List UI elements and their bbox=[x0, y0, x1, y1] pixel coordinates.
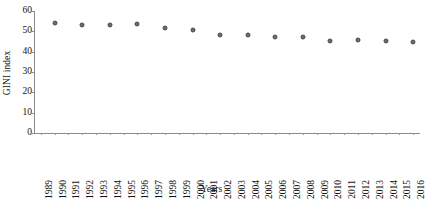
x-axis-line bbox=[34, 133, 420, 134]
x-axis-tick-labels: 1989199019911992199319941995199619971998… bbox=[34, 136, 420, 182]
data-point bbox=[52, 20, 57, 25]
y-tick-mark bbox=[31, 92, 35, 93]
x-tick-mark bbox=[413, 133, 414, 135]
y-axis-title-text: GINI index bbox=[2, 50, 12, 95]
x-tick-mark bbox=[137, 133, 138, 135]
data-point bbox=[328, 38, 333, 43]
x-tick-mark bbox=[289, 133, 290, 135]
x-tick-mark bbox=[234, 133, 235, 135]
x-tick-mark bbox=[151, 133, 152, 135]
x-tick-mark bbox=[110, 133, 111, 135]
y-tick-mark bbox=[31, 72, 35, 73]
x-axis-title: Years bbox=[0, 184, 423, 194]
data-point bbox=[135, 22, 140, 27]
x-tick-mark bbox=[344, 133, 345, 135]
x-tick-mark bbox=[220, 133, 221, 135]
y-tick-mark bbox=[31, 31, 35, 32]
data-point bbox=[273, 35, 278, 40]
y-tick-mark bbox=[31, 113, 35, 114]
x-tick-mark bbox=[261, 133, 262, 135]
x-tick-mark bbox=[358, 133, 359, 135]
x-tick-mark bbox=[317, 133, 318, 135]
data-point bbox=[383, 38, 388, 43]
x-tick-mark bbox=[386, 133, 387, 135]
x-tick-mark bbox=[124, 133, 125, 135]
x-tick-mark bbox=[206, 133, 207, 135]
x-tick-mark bbox=[303, 133, 304, 135]
x-tick-mark bbox=[96, 133, 97, 135]
y-tick-mark bbox=[31, 11, 35, 12]
x-tick-mark bbox=[399, 133, 400, 135]
data-point bbox=[245, 32, 250, 37]
data-point bbox=[190, 28, 195, 33]
y-tick-mark bbox=[31, 52, 35, 53]
x-tick-mark bbox=[372, 133, 373, 135]
data-point bbox=[300, 34, 305, 39]
data-point bbox=[162, 25, 167, 30]
x-tick-mark bbox=[193, 133, 194, 135]
data-point bbox=[107, 23, 112, 28]
data-point bbox=[218, 32, 223, 37]
data-point bbox=[355, 38, 360, 43]
data-point bbox=[80, 23, 85, 28]
data-point bbox=[411, 40, 416, 45]
x-tick-mark bbox=[330, 133, 331, 135]
x-tick-mark bbox=[55, 133, 56, 135]
x-tick-mark bbox=[82, 133, 83, 135]
x-tick-mark bbox=[248, 133, 249, 135]
y-axis-tick-labels: 0102030405060 bbox=[12, 0, 32, 140]
x-tick-mark bbox=[68, 133, 69, 135]
x-tick-mark bbox=[41, 133, 42, 135]
plot-area bbox=[34, 11, 420, 133]
y-tick-mark bbox=[31, 133, 35, 134]
x-tick-mark bbox=[275, 133, 276, 135]
x-tick-mark bbox=[179, 133, 180, 135]
x-tick-mark bbox=[165, 133, 166, 135]
